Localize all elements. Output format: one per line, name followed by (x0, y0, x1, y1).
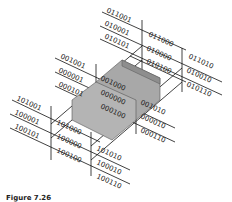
isometric-grid-diagram: 011001 010001 010101 011000 010000 01010… (0, 0, 232, 202)
diagram-canvas: 011001 010001 010101 011000 010000 01010… (0, 0, 232, 202)
figure-caption: Figure 7.26 (6, 194, 51, 202)
